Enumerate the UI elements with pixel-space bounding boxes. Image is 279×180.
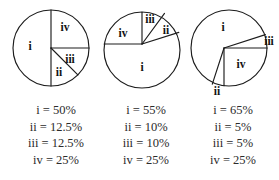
legend-2-line-iv: iv = 25% — [104, 152, 188, 169]
legend-1-line-i: i = 50% — [4, 102, 108, 119]
pie-2-label-iv: iv — [119, 27, 128, 39]
pie-chart-2: i iv iii ii — [96, 0, 188, 96]
pie-chart-3: i iii iv ii — [184, 0, 279, 96]
pie-1-label-iii: iii — [65, 53, 75, 65]
legend-3-line-i: i = 65% — [190, 102, 276, 119]
pie-3-label-iii: iii — [264, 35, 274, 47]
pie-chart-1-svg: i iv iii ii — [2, 0, 100, 96]
pie-chart-1: i iv iii ii — [2, 0, 100, 96]
legend-chart-1: i = 50% ii = 12.5% iii = 12.5% iv = 25% — [4, 102, 108, 168]
pie-chart-3-svg: i iii iv ii — [184, 0, 279, 96]
legend-1-line-iv: iv = 25% — [4, 152, 108, 169]
pie-1-label-iv: iv — [61, 21, 70, 33]
legend-chart-3: i = 65% ii = 5% iii = 5% iv = 25% — [190, 102, 276, 168]
legend-2-line-i: i = 55% — [104, 102, 188, 119]
legend-3-line-iii: iii = 5% — [190, 135, 276, 152]
pie-2-label-iii: iii — [145, 13, 155, 25]
legends-row: i = 50% ii = 12.5% iii = 12.5% iv = 25% … — [0, 96, 279, 180]
legend-1-line-ii: ii = 12.5% — [4, 119, 108, 136]
pie-3-label-ii: ii — [214, 85, 221, 96]
charts-row: i iv iii ii i iv iii — [0, 0, 279, 96]
pie-2-label-ii: ii — [163, 24, 170, 36]
legend-3-line-iv: iv = 25% — [190, 152, 276, 169]
pie-3-label-iv: iv — [237, 58, 246, 70]
pie-1-label-ii: ii — [56, 66, 63, 78]
legend-2-line-ii: ii = 10% — [104, 119, 188, 136]
pie-chart-2-svg: i iv iii ii — [96, 0, 188, 96]
legend-chart-2: i = 55% ii = 10% iii = 10% iv = 25% — [104, 102, 188, 168]
legend-3-line-ii: ii = 5% — [190, 119, 276, 136]
pie-chart-figure: i iv iii ii i iv iii — [0, 0, 279, 180]
legend-2-line-iii: iii = 10% — [104, 135, 188, 152]
legend-1-line-iii: iii = 12.5% — [4, 135, 108, 152]
